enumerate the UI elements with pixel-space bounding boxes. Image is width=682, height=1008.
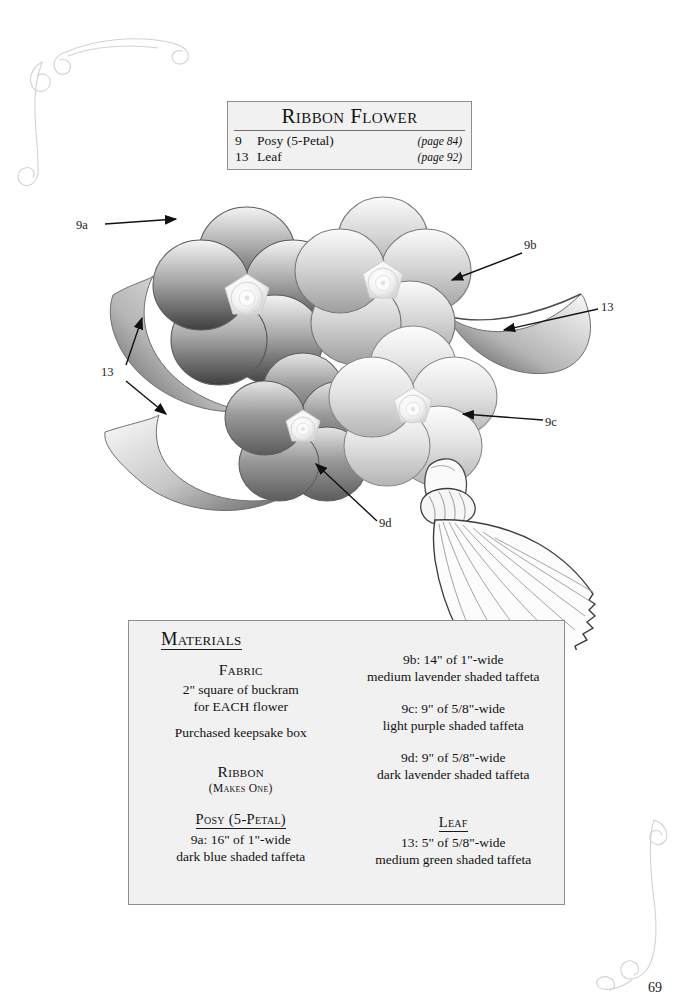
title-row: 9 Posy (5-Petal) (page 84) xyxy=(228,133,471,149)
ribbon-item-desc: medium lavender shaded taffeta xyxy=(353,668,555,685)
leaf-line: 13: 5" of 5/8"-wide xyxy=(353,834,555,851)
ribbon-flower-illustration xyxy=(95,180,655,650)
fabric-line: 2" square of buckram xyxy=(141,681,341,698)
title-row-number: 13 xyxy=(235,149,257,165)
callout-label-9d: 9d xyxy=(379,516,392,531)
leaf-line: medium green shaded taffeta xyxy=(353,851,555,868)
ribbon-item-desc: light purple shaded taffeta xyxy=(353,717,555,734)
fabric-line: Purchased keepsake box xyxy=(141,724,341,741)
ribbon-makes-note: (Makes One) xyxy=(141,782,341,794)
title-row: 13 Leaf (page 92) xyxy=(228,149,471,165)
page-title: Ribbon Flower xyxy=(228,106,471,127)
spacer xyxy=(141,715,341,724)
spacer xyxy=(353,685,555,700)
spacer xyxy=(353,629,555,651)
spacer xyxy=(353,783,555,813)
title-row-page-ref: (page 92) xyxy=(418,151,462,165)
fabric-heading: Fabric xyxy=(141,661,341,679)
posy-line: dark blue shaded taffeta xyxy=(141,848,341,865)
materials-box: Materials Fabric 2" square of buckram fo… xyxy=(128,620,565,905)
fabric-line: for EACH flower xyxy=(141,698,341,715)
materials-right-column: 9b: 14" of 1"-wide medium lavender shade… xyxy=(347,621,565,904)
title-row-page-ref: (page 84) xyxy=(418,135,462,149)
title-row-number: 9 xyxy=(235,133,257,149)
ribbon-heading: Ribbon xyxy=(141,763,341,781)
callout-label-9b: 9b xyxy=(524,238,537,253)
materials-left-column: Materials Fabric 2" square of buckram fo… xyxy=(129,621,347,904)
title-row-name: Posy (5-Petal) xyxy=(257,133,418,149)
ribbon-item-size: 9d: 9" of 5/8"-wide xyxy=(353,749,555,766)
materials-heading: Materials xyxy=(161,629,242,650)
spacer xyxy=(353,734,555,749)
materials-heading-wrapper: Materials xyxy=(141,629,341,650)
callout-label-13-right: 13 xyxy=(601,300,614,315)
ribbon-item-size: 9c: 9" of 5/8"-wide xyxy=(353,700,555,717)
page-number: 69 xyxy=(648,980,662,996)
callout-label-13-left: 13 xyxy=(101,365,114,380)
posy-heading: Posy (5-Petal) xyxy=(196,811,286,829)
spacer xyxy=(141,741,341,763)
posy-line: 9a: 16" of 1"-wide xyxy=(141,831,341,848)
corner-flourish-top-left xyxy=(8,22,208,202)
spacer xyxy=(141,801,341,810)
ribbon-item-size: 9b: 14" of 1"-wide xyxy=(353,651,555,668)
ribbon-item-desc: dark lavender shaded taffeta xyxy=(353,766,555,783)
leaf-heading: Leaf xyxy=(439,814,468,832)
callout-label-9a: 9a xyxy=(76,218,88,233)
callout-label-9c: 9c xyxy=(545,415,557,430)
title-row-name: Leaf xyxy=(257,149,418,165)
title-divider xyxy=(234,130,465,131)
title-box: Ribbon Flower 9 Posy (5-Petal) (page 84)… xyxy=(227,101,472,170)
corner-flourish-bottom-right xyxy=(592,808,678,1004)
